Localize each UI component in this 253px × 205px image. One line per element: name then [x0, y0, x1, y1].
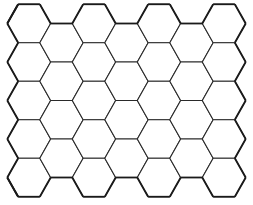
hexagon-grid [0, 0, 253, 205]
hexagon-grid-diagram [0, 0, 253, 205]
hexagon-cells [7, 4, 245, 197]
